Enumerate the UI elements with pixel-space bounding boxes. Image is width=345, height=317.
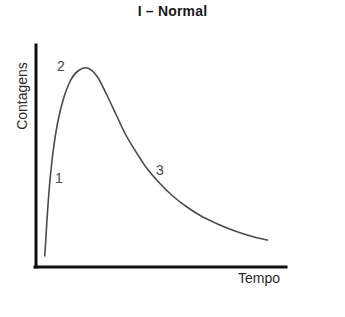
y-axis-label: Contagens bbox=[14, 41, 30, 151]
curve-annotation-2: 2 bbox=[57, 58, 65, 74]
x-axis-label: Tempo bbox=[238, 270, 280, 286]
chart-figure: I – Normal Contagens Tempo 1 2 3 bbox=[0, 0, 345, 317]
curve-annotation-3: 3 bbox=[156, 162, 164, 178]
curve-annotation-1: 1 bbox=[55, 170, 63, 186]
plot-area bbox=[0, 0, 345, 317]
